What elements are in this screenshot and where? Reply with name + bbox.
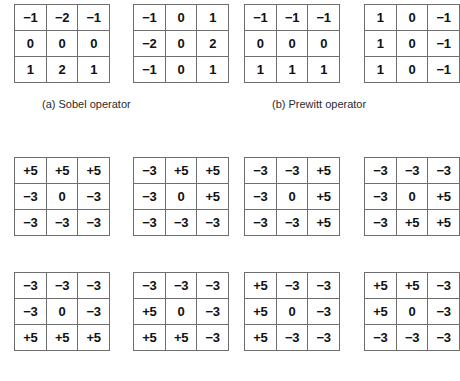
matrix-cell: −1 [428, 5, 460, 31]
matrix-cell: 1 [197, 57, 229, 83]
matrix-cell: 0 [166, 57, 198, 83]
matrix-cell: −1 [428, 31, 460, 57]
matrix-cell: +5 [365, 299, 397, 325]
matrix-cell: −3 [397, 325, 429, 351]
matrix-cell: −3 [78, 273, 110, 299]
caption-sobel-operator: (a) Sobel operator [42, 98, 131, 110]
matrix-cell: 0 [15, 31, 47, 57]
matrix-cell: −3 [308, 325, 340, 351]
matrix-cell: −3 [78, 184, 110, 210]
matrix-cell: 0 [308, 31, 340, 57]
matrix-cell: 0 [47, 184, 79, 210]
matrix-sobel-vertical: −1 0 1 −2 0 2 −1 0 1 [133, 4, 229, 83]
matrix-cell: +5 [166, 325, 198, 351]
matrix-cell: −3 [365, 325, 397, 351]
matrix-cell: +5 [428, 184, 460, 210]
matrix-cell: −3 [197, 299, 229, 325]
matrix-cell: 1 [365, 31, 397, 57]
matrix-cell: −3 [365, 184, 397, 210]
matrix-cell: −3 [365, 158, 397, 184]
matrix-kirsch-southwest: −3 −3 −3 +5 0 −3 +5 +5 −3 [133, 272, 229, 351]
matrix-cell: +5 [397, 273, 429, 299]
matrix-cell: +5 [15, 325, 47, 351]
matrix-cell: +5 [308, 210, 340, 236]
matrix-cell: −1 [277, 5, 309, 31]
matrix-cell: −3 [197, 325, 229, 351]
matrix-cell: 0 [277, 299, 309, 325]
matrix-cell: −3 [15, 299, 47, 325]
matrix-cell: −1 [134, 57, 166, 83]
matrix-cell: 0 [47, 31, 79, 57]
matrix-kirsch-south: −3 −3 −3 −3 0 −3 +5 +5 +5 [14, 272, 110, 351]
matrix-cell: −3 [197, 273, 229, 299]
matrix-kirsch-west: +5 −3 −3 +5 0 −3 +5 −3 −3 [244, 272, 340, 351]
matrix-kirsch-northeast: −3 +5 +5 −3 0 +5 −3 −3 −3 [133, 157, 229, 236]
matrix-cell: 0 [47, 299, 79, 325]
matrix-cell: 0 [245, 31, 277, 57]
matrix-cell: +5 [134, 299, 166, 325]
matrix-cell: −2 [134, 31, 166, 57]
matrix-cell: 2 [197, 31, 229, 57]
matrix-prewitt-vertical: 1 0 −1 1 0 −1 1 0 −1 [364, 4, 460, 83]
matrix-cell: −3 [166, 210, 198, 236]
matrix-prewitt-horizontal: −1 −1 −1 0 0 0 1 1 1 [244, 4, 340, 83]
matrix-cell: +5 [397, 210, 429, 236]
matrix-cell: −3 [245, 184, 277, 210]
matrix-cell: 1 [245, 57, 277, 83]
matrix-cell: 1 [78, 57, 110, 83]
matrix-cell: 0 [166, 31, 198, 57]
matrix-cell: −3 [428, 158, 460, 184]
matrix-cell: +5 [134, 325, 166, 351]
matrix-cell: −3 [15, 184, 47, 210]
matrix-cell: −3 [308, 273, 340, 299]
matrix-cell: −3 [277, 158, 309, 184]
matrix-cell: 0 [277, 184, 309, 210]
matrix-cell: −3 [197, 210, 229, 236]
matrix-cell: 0 [397, 5, 429, 31]
matrix-cell: 0 [397, 299, 429, 325]
matrix-cell: −1 [428, 57, 460, 83]
matrix-cell: −3 [428, 299, 460, 325]
matrix-cell: −3 [365, 210, 397, 236]
matrix-cell: −3 [134, 158, 166, 184]
matrix-cell: −3 [277, 210, 309, 236]
matrix-kirsch-northwest: +5 +5 −3 +5 0 −3 −3 −3 −3 [364, 272, 460, 351]
matrix-kirsch-southeast: −3 −3 −3 −3 0 +5 −3 +5 +5 [364, 157, 460, 236]
matrix-cell: −3 [78, 299, 110, 325]
matrix-cell: +5 [308, 184, 340, 210]
matrix-cell: 1 [365, 57, 397, 83]
matrix-cell: 0 [397, 184, 429, 210]
matrix-cell: −3 [245, 158, 277, 184]
matrix-cell: 0 [397, 31, 429, 57]
matrix-cell: −3 [134, 273, 166, 299]
matrix-cell: +5 [197, 184, 229, 210]
matrix-kirsch-north: +5 +5 +5 −3 0 −3 −3 −3 −3 [14, 157, 110, 236]
matrix-cell: −3 [428, 325, 460, 351]
matrix-cell: +5 [78, 325, 110, 351]
matrix-cell: −3 [308, 299, 340, 325]
matrix-cell: 2 [47, 57, 79, 83]
matrix-cell: −3 [277, 325, 309, 351]
matrix-cell: 1 [197, 5, 229, 31]
matrix-cell: +5 [47, 158, 79, 184]
matrix-cell: −3 [134, 184, 166, 210]
matrix-cell: −1 [15, 5, 47, 31]
matrix-cell: −3 [47, 273, 79, 299]
matrix-cell: 1 [277, 57, 309, 83]
matrix-cell: +5 [166, 158, 198, 184]
matrix-cell: −1 [308, 5, 340, 31]
matrix-cell: −3 [15, 210, 47, 236]
matrix-cell: 0 [78, 31, 110, 57]
matrix-cell: 1 [365, 5, 397, 31]
matrix-cell: −1 [245, 5, 277, 31]
matrix-cell: +5 [245, 273, 277, 299]
matrix-cell: +5 [245, 325, 277, 351]
matrix-cell: −3 [245, 210, 277, 236]
matrix-cell: −3 [166, 273, 198, 299]
matrix-cell: +5 [428, 210, 460, 236]
matrix-cell: 0 [397, 57, 429, 83]
matrix-cell: −3 [397, 158, 429, 184]
matrix-cell: +5 [47, 325, 79, 351]
matrix-cell: −1 [78, 5, 110, 31]
